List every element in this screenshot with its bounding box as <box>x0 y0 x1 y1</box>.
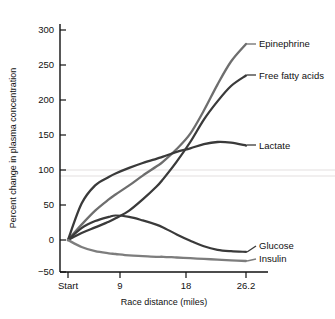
y-axis-ticks <box>60 30 66 272</box>
x-axis-title: Race distance (miles) <box>121 297 208 307</box>
line-chart-canvas: 300 250 200 150 100 50 0 −50 Start 9 18 … <box>0 0 335 319</box>
series-label-free-fatty-acids: Free fatty acids <box>259 70 324 81</box>
y-tick-label-200: 200 <box>38 94 54 105</box>
y-tick-label-100: 100 <box>38 164 54 175</box>
series-label-epinephrine: Epinephrine <box>259 38 310 49</box>
series-line-glucose <box>68 216 246 252</box>
x-tick-label-18: 18 <box>181 280 192 291</box>
y-tick-label-50: 50 <box>43 199 54 210</box>
leader-glucose <box>247 246 256 252</box>
x-tick-label-26-2: 26.2 <box>237 280 256 291</box>
series-curves-group <box>68 44 246 261</box>
x-tick-label-9: 9 <box>117 280 122 291</box>
x-axis-ticks <box>68 272 246 278</box>
y-tick-label-250: 250 <box>38 59 54 70</box>
x-tick-label-start: Start <box>58 280 78 291</box>
series-label-glucose: Glucose <box>259 240 294 251</box>
series-label-lactate: Lactate <box>259 140 290 151</box>
series-label-insulin: Insulin <box>259 253 286 264</box>
y-tick-label-0: 0 <box>49 234 54 245</box>
y-tick-label-minus50: −50 <box>38 266 54 277</box>
leader-insulin <box>247 259 256 261</box>
y-tick-label-150: 150 <box>38 129 54 140</box>
y-tick-label-300: 300 <box>38 24 54 35</box>
series-leader-lines <box>247 44 256 261</box>
y-axis-title: Percent change in plasma concentration <box>8 68 18 229</box>
